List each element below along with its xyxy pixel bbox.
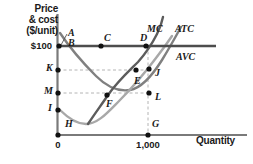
point-label-M: M: [44, 86, 53, 96]
point-label-D: D: [140, 33, 147, 43]
point-dot-J: [146, 66, 151, 71]
point-dot-H: [55, 132, 60, 137]
mc-curve-label: MC: [147, 24, 163, 34]
point-label-L: L: [155, 92, 161, 102]
point-dot-I: [55, 107, 60, 112]
point-dot-F: [104, 92, 109, 97]
point-dot-C: [98, 43, 103, 48]
point-dot-D: [143, 43, 148, 48]
point-label-K: K: [46, 63, 53, 73]
x-tick-origin: 0: [55, 140, 60, 150]
point-dot-G: [145, 132, 150, 137]
point-label-G: G: [152, 119, 159, 129]
atc-curve-label: ATC: [175, 24, 194, 34]
point-dot-B: [56, 43, 61, 48]
point-label-E: E: [134, 76, 141, 86]
cost-curve-figure: Price & cost ($/unit) $100 0 1,000 Quant…: [0, 0, 253, 164]
point-label-I: I: [48, 103, 52, 113]
x-axis-title: Quantity: [196, 136, 235, 146]
point-dot-K: [55, 67, 60, 72]
point-label-H: H: [65, 119, 73, 129]
point-dot-M: [55, 90, 60, 95]
point-label-F: F: [106, 99, 113, 109]
y-axis-title-line3: ($/unit): [26, 26, 58, 36]
point-dot-L: [146, 90, 151, 95]
point-label-J: J: [155, 68, 160, 78]
point-dot-E: [133, 67, 138, 72]
y-axis-title-line1: Price: [26, 4, 58, 14]
y-axis-title: Price & cost ($/unit): [26, 4, 58, 37]
avc-curve: [60, 36, 172, 124]
avc-curve-label: AVC: [176, 52, 195, 62]
x-tick-1000: 1,000: [136, 140, 160, 150]
y-axis-title-line2: & cost: [26, 15, 58, 25]
y-tick-100: $100: [31, 41, 52, 51]
point-label-B: B: [68, 38, 75, 48]
point-label-C: C: [104, 33, 111, 43]
